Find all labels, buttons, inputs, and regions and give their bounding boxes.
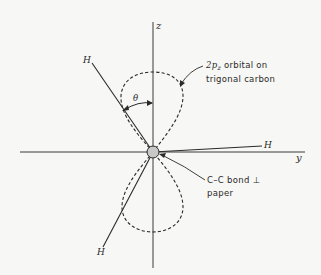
ch-bond-upper-left [92,63,153,152]
theta-arrowhead-right [147,100,153,106]
bond-leader-arrowhead [159,153,166,158]
orbital-annotation: 2pz orbital on trigonal carbon [206,61,275,84]
hydrogen-label-lower-left: H [97,248,105,257]
orbital-annotation-line1: 2pz orbital on [206,61,275,71]
bond-leader-line [162,155,205,180]
bond-annotation-line2: paper [207,189,260,198]
bond-annotation: C–C bond ⊥ paper [207,176,260,197]
orbital-leader-line [181,66,203,84]
bond-annotation-line1: C–C bond ⊥ [207,176,260,185]
ch-bond-right [153,146,262,152]
hydrogen-label-upper-left: H [83,56,91,65]
theta-label: θ [133,94,138,103]
hydrogen-label-right: H [264,141,272,150]
carbon-atom [147,146,159,158]
z-axis-label: z [156,21,161,31]
ch-bond-lower-left [103,152,153,247]
orbital-diagram [0,0,321,275]
diagram-canvas: z y H H H θ 2pz orbital on trigonal carb… [0,0,321,275]
orbital-annotation-line2: trigonal carbon [206,75,275,84]
y-axis-label: y [296,153,302,163]
upper-p-lobe [121,72,183,152]
